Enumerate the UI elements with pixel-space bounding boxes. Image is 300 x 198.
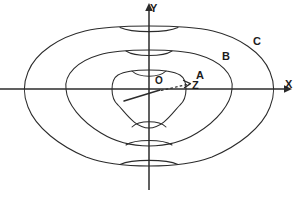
figure-canvas [0,0,300,198]
contour-figure: Y X O Z A B C [0,0,300,198]
contour-label-a: A [196,70,204,81]
z-vector-arrowhead [184,81,191,88]
origin-solid-ray [124,90,160,101]
z-vector-label: Z [192,80,199,91]
y-axis-label: Y [150,3,158,14]
contour-label-b: B [222,51,230,62]
x-axis-label: X [285,79,293,90]
origin-label: O [155,76,163,86]
contour-label-c: C [253,36,261,47]
